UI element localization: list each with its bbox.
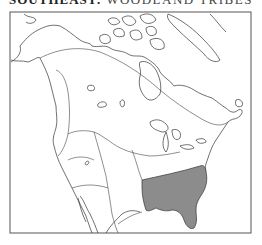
map-frame — [10, 12, 251, 233]
culture-area-map — [0, 0, 262, 245]
